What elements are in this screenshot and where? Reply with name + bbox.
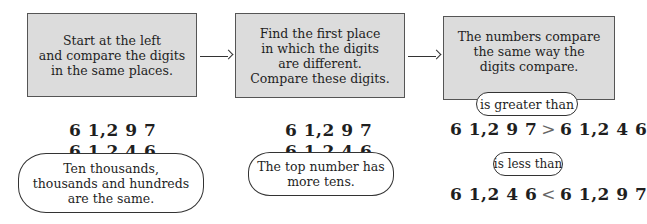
arrow-right-icon xyxy=(200,50,232,62)
step-1-line-3: in the same places. xyxy=(51,63,173,78)
step-2-note-line-1: The top number has xyxy=(257,159,385,174)
step-2-box: Find the first place in which the digits… xyxy=(235,13,405,98)
comparison-right-number: 6 1,2 4 6 xyxy=(560,119,647,139)
step-2-note-line-2: more tens. xyxy=(287,174,355,189)
less-than-symbol: < xyxy=(541,184,556,204)
step-2-line-2: in which the digits xyxy=(261,41,379,56)
greater-than-statement: 6 1,2 9 7>6 1,2 4 6 xyxy=(450,119,647,139)
arrow-right-icon xyxy=(408,50,440,62)
step-3-line-2: the same way the xyxy=(473,44,584,59)
step-1-note-line-1: Ten thousands, xyxy=(63,161,159,176)
step-3-line-1: The numbers compare xyxy=(458,29,601,44)
step-2-thought-cloud: The top number has more tens. xyxy=(248,152,394,196)
step-1-note-line-3: are the same. xyxy=(68,191,154,206)
step-3-line-3: digits compare. xyxy=(480,59,579,74)
comparison-left-number: 6 1,2 9 7 xyxy=(450,119,537,139)
less-than-cloud: is less than xyxy=(493,152,563,176)
greater-than-label: is greater than xyxy=(480,97,574,112)
greater-than-symbol: > xyxy=(541,119,556,139)
comparison-left-number: 6 1,2 4 6 xyxy=(450,184,537,204)
step-2-number-top: 6 1,2 9 7 xyxy=(285,120,372,140)
step-3-box: The numbers compare the same way the dig… xyxy=(443,16,615,100)
step-2-line-1: Find the first place xyxy=(260,26,381,41)
step-2-line-3: are different. xyxy=(278,56,362,71)
step-1-line-2: and compare the digits xyxy=(39,48,186,63)
step-1-box: Start at the left and compare the digits… xyxy=(27,13,197,97)
less-than-label: is less than xyxy=(494,157,562,172)
less-than-statement: 6 1,2 4 6<6 1,2 9 7 xyxy=(450,184,647,204)
comparison-right-number: 6 1,2 9 7 xyxy=(560,184,647,204)
step-1-note-line-2: thousands and hundreds xyxy=(33,176,189,191)
step-1-number-top: 6 1,2 9 7 xyxy=(69,120,156,140)
step-2-line-4: Compare these digits. xyxy=(250,71,389,86)
step-1-thought-cloud: Ten thousands, thousands and hundreds ar… xyxy=(18,153,204,213)
greater-than-cloud: is greater than xyxy=(476,92,578,116)
step-1-line-1: Start at the left xyxy=(63,33,161,48)
